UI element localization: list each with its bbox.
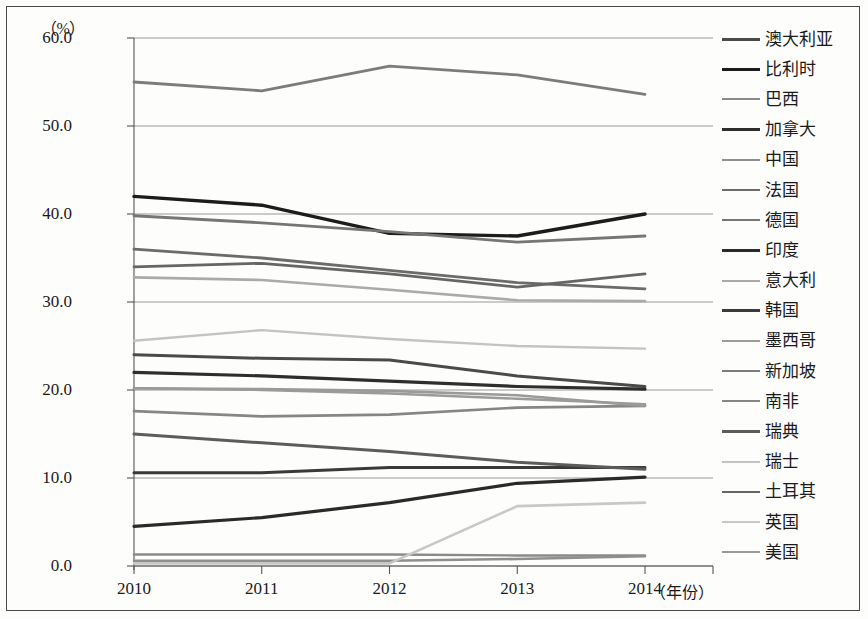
legend-item[interactable]: 比利时 bbox=[722, 54, 862, 84]
series-line-4 bbox=[134, 556, 645, 560]
legend-label: 瑞士 bbox=[765, 453, 799, 470]
series-line-17 bbox=[134, 388, 645, 406]
legend-label: 法国 bbox=[765, 182, 799, 199]
legend-swatch-line-icon bbox=[722, 430, 760, 433]
legend-label: 比利时 bbox=[765, 61, 816, 78]
legend-label: 印度 bbox=[765, 242, 799, 259]
series-line-7 bbox=[134, 477, 645, 526]
legend-swatch-line-icon bbox=[722, 521, 760, 523]
legend-swatch-line-icon bbox=[722, 400, 760, 402]
legend-item[interactable]: 巴西 bbox=[722, 84, 862, 114]
data-series-group bbox=[134, 66, 645, 563]
legend-label: 英国 bbox=[765, 514, 799, 531]
series-line-14 bbox=[134, 330, 645, 348]
legend-item[interactable]: 南非 bbox=[722, 386, 862, 416]
legend-label: 德国 bbox=[765, 212, 799, 229]
legend-label: 新加坡 bbox=[765, 363, 816, 380]
legend-swatch-line-icon bbox=[722, 68, 760, 71]
legend-item[interactable]: 印度 bbox=[722, 235, 862, 265]
legend-swatch-line-icon bbox=[722, 249, 760, 252]
series-line-15 bbox=[134, 263, 645, 287]
series-line-13 bbox=[134, 434, 645, 469]
chart-legend: 澳大利亚比利时巴西加拿大中国法国德国印度意大利韩国墨西哥新加坡南非瑞典瑞士土耳其… bbox=[722, 24, 862, 567]
legend-label: 土耳其 bbox=[765, 483, 816, 500]
legend-item[interactable]: 英国 bbox=[722, 507, 862, 537]
legend-swatch-line-icon bbox=[722, 98, 760, 100]
legend-item[interactable]: 韩国 bbox=[722, 296, 862, 326]
legend-label: 巴西 bbox=[765, 91, 799, 108]
legend-item[interactable]: 瑞士 bbox=[722, 447, 862, 477]
legend-swatch-line-icon bbox=[722, 340, 760, 342]
legend-swatch-line-icon bbox=[722, 219, 760, 221]
legend-swatch-line-icon bbox=[722, 370, 760, 372]
series-line-1 bbox=[134, 196, 645, 236]
series-line-12 bbox=[134, 406, 645, 417]
legend-swatch-line-icon bbox=[722, 461, 760, 463]
legend-swatch-line-icon bbox=[722, 128, 760, 131]
legend-swatch-line-icon bbox=[722, 189, 760, 191]
series-line-11 bbox=[134, 66, 645, 94]
series-line-2 bbox=[134, 555, 645, 556]
legend-item[interactable]: 中国 bbox=[722, 145, 862, 175]
legend-swatch-line-icon bbox=[722, 491, 760, 493]
legend-item[interactable]: 意大利 bbox=[722, 266, 862, 296]
legend-swatch-line-icon bbox=[722, 309, 760, 312]
legend-label: 韩国 bbox=[765, 302, 799, 319]
legend-label: 南非 bbox=[765, 393, 799, 410]
legend-swatch-line-icon bbox=[722, 38, 760, 41]
legend-swatch-line-icon bbox=[722, 280, 760, 282]
legend-item[interactable]: 德国 bbox=[722, 205, 862, 235]
series-line-9 bbox=[134, 467, 645, 472]
legend-label: 意大利 bbox=[765, 272, 816, 289]
series-line-6 bbox=[134, 216, 645, 242]
legend-label: 中国 bbox=[765, 151, 799, 168]
legend-item[interactable]: 墨西哥 bbox=[722, 326, 862, 356]
legend-label: 墨西哥 bbox=[765, 332, 816, 349]
legend-item[interactable]: 瑞典 bbox=[722, 416, 862, 446]
legend-label: 加拿大 bbox=[765, 121, 816, 138]
legend-item[interactable]: 加拿大 bbox=[722, 115, 862, 145]
legend-swatch-line-icon bbox=[722, 551, 760, 553]
legend-item[interactable]: 新加坡 bbox=[722, 356, 862, 386]
legend-item[interactable]: 土耳其 bbox=[722, 477, 862, 507]
legend-label: 澳大利亚 bbox=[765, 31, 833, 48]
legend-swatch-line-icon bbox=[722, 159, 760, 161]
legend-item[interactable]: 美国 bbox=[722, 537, 862, 567]
legend-item[interactable]: 法国 bbox=[722, 175, 862, 205]
legend-item[interactable]: 澳大利亚 bbox=[722, 24, 862, 54]
legend-label: 瑞典 bbox=[765, 423, 799, 440]
legend-label: 美国 bbox=[765, 544, 799, 561]
